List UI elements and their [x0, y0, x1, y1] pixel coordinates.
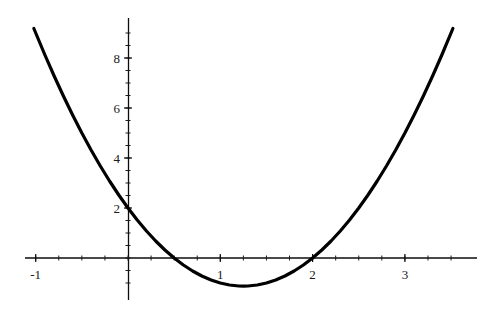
x-tick-label-3: 3	[402, 268, 409, 281]
y-tick-label-8: 8	[114, 52, 121, 65]
plot-canvas	[0, 0, 486, 313]
axes-group	[25, 18, 477, 300]
x-tick-label-2: 2	[309, 268, 316, 281]
x-tick-label-neg1: -1	[30, 268, 41, 281]
y-tick-label-2: 2	[114, 202, 121, 215]
y-tick-label-4: 4	[114, 152, 121, 165]
y-tick-label-6: 6	[114, 102, 121, 115]
plot-figure: -1123 2468	[0, 0, 486, 313]
x-tick-label-1: 1	[217, 268, 224, 281]
parabola-curve	[34, 29, 453, 287]
